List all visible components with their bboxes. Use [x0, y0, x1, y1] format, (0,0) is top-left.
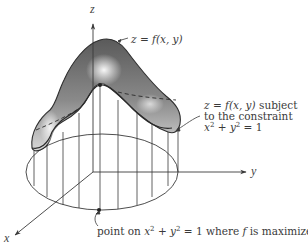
- max-label-mid: = 1 where: [180, 225, 242, 237]
- z-axis-label: z: [90, 4, 95, 15]
- surface-label-eq: =: [137, 33, 152, 45]
- max-label-post: is maximized: [246, 225, 308, 237]
- y-axis-label: y: [251, 166, 256, 177]
- constraint-plus: +: [214, 121, 229, 133]
- max-point-on-surface: [98, 83, 102, 87]
- surface-label: z = f(x, y): [131, 34, 183, 45]
- x-axis-label: x: [4, 233, 9, 244]
- max-label-pre: point on: [97, 225, 144, 237]
- max-point-label: point on x2 + y2 = 1 where f is maximize…: [97, 226, 308, 237]
- max-label-plus: +: [155, 225, 170, 237]
- constrained-label-line3: x2 + y2 = 1: [204, 122, 297, 133]
- constrained-label: z = f(x, y) subject to the constraint x2…: [204, 100, 297, 133]
- constraint-rest: = 1: [240, 121, 262, 133]
- surface-label-args: (x, y): [156, 33, 183, 45]
- x-axis: [15, 172, 93, 235]
